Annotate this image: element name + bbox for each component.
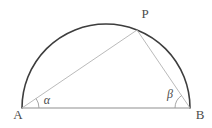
point-label-p: P: [141, 6, 148, 21]
chord-ap-line: [22, 30, 137, 108]
angle-label-beta: β: [166, 87, 173, 101]
semicircle-figure: P A B α β: [0, 0, 212, 128]
angle-arc-alpha: [36, 98, 39, 108]
angle-label-alpha: α: [44, 93, 51, 107]
point-label-b: B: [196, 107, 205, 122]
point-label-a: A: [13, 107, 23, 122]
chord-bp-line: [137, 30, 190, 108]
figure-canvas: P A B α β: [0, 0, 212, 128]
angle-arc-beta: [175, 96, 182, 108]
